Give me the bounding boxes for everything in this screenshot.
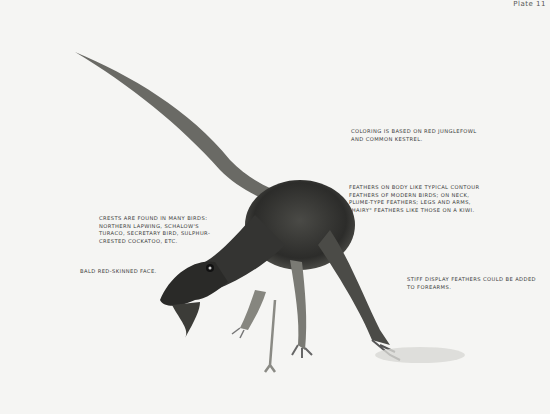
annotation-coloring: Coloring is based on red junglefowl and … — [351, 128, 477, 143]
annotation-feathers: Feathers on body like typical contour fe… — [349, 184, 479, 214]
annotation-crests: Crests are found in many birds: northern… — [99, 215, 210, 245]
annotation-display-feathers: Stiff display feathers could be added to… — [407, 276, 536, 291]
annotation-face: Bald red-skinned face. — [80, 268, 157, 276]
illustration-plate: Plate 11 Coloring is bas — [0, 0, 550, 414]
